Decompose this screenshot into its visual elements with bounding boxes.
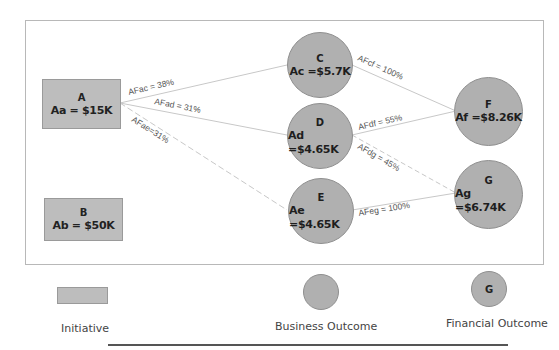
node-d[interactable]: D Ad =$4.65K (287, 103, 353, 169)
edge-label-eg: AFeg = 100% (358, 200, 411, 218)
legend-financial-outcome-swatch: G (471, 271, 507, 307)
node-f[interactable]: F Af =$8.26K (454, 77, 523, 146)
node-c-value: Ac =$5.7K (289, 65, 350, 79)
node-c[interactable]: C Ac =$5.7K (287, 32, 353, 98)
node-a[interactable]: A Aa = $15K (42, 79, 121, 129)
legend-financial-outcome-label: Financial Outcome (446, 317, 548, 330)
node-c-id: C (316, 52, 323, 65)
node-e[interactable]: E Ae =$4.65K (288, 178, 354, 244)
node-g-value: Ag =$6.74K (455, 187, 522, 215)
node-d-value: Ad =$4.65K (288, 129, 352, 157)
edge-d-g (352, 135, 456, 193)
edge-label-dg: AFdg = 45% (356, 141, 402, 173)
node-a-id: A (78, 91, 86, 104)
node-g[interactable]: G Ag =$6.74K (454, 160, 523, 229)
node-b-id: B (80, 206, 88, 219)
node-g-id: G (484, 174, 492, 187)
bottom-divider (108, 344, 508, 346)
legend-initiative-label: Initiative (61, 322, 109, 335)
node-f-value: Af =$8.26K (455, 111, 522, 125)
legend-financial-outcome-sample: G (485, 284, 493, 295)
node-d-id: D (316, 116, 324, 129)
edge-label-ad: AFad = 31% (154, 96, 202, 115)
edge-label-ac: AFac = 38% (127, 77, 175, 97)
legend-business-outcome-swatch (303, 274, 339, 310)
node-f-id: F (485, 98, 492, 111)
node-a-value: Aa = $15K (51, 104, 113, 118)
legend-business-outcome-label: Business Outcome (275, 320, 377, 333)
legend-initiative-swatch (57, 287, 108, 304)
node-e-value: Ae =$4.65K (289, 204, 353, 232)
node-b-value: Ab = $50K (52, 219, 114, 233)
edge-label-ae: AFae=31% (130, 114, 172, 145)
node-e-id: E (318, 191, 325, 204)
node-b[interactable]: B Ab = $50K (44, 198, 123, 241)
